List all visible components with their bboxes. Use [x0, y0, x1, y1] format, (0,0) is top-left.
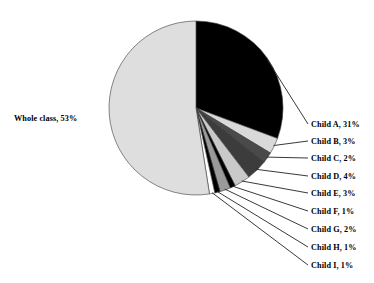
leader-line [256, 169, 308, 176]
pie-chart: Whole class, 53% Child A, 31% Child B, 3… [0, 0, 374, 283]
leader-line [212, 193, 308, 265]
slice-label-child-f: Child F, 1% [311, 208, 354, 216]
slice-label-child-b: Child B, 3% [311, 138, 356, 146]
slice-label-child-a: Child A, 31% [311, 121, 360, 129]
leader-line [267, 157, 308, 158]
slice-label-child-h: Child H, 1% [311, 244, 356, 252]
pie-slices-group [109, 21, 283, 195]
slice-label-whole-class: Whole class, 53% [14, 115, 77, 123]
pie-slice [109, 21, 209, 195]
slice-label-child-e: Child E, 3% [311, 190, 356, 198]
slice-label-child-i: Child I, 1% [311, 262, 353, 270]
leader-line [225, 189, 308, 229]
leader-line [217, 191, 308, 247]
slice-label-child-d: Child D, 4% [311, 173, 356, 181]
slice-label-child-g: Child G, 2% [311, 226, 356, 234]
leader-line [242, 181, 308, 193]
leader-line [274, 141, 308, 146]
slice-label-child-c: Child C, 2% [311, 155, 356, 163]
